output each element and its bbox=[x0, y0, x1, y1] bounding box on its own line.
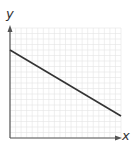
y-axis-arrow-icon bbox=[8, 25, 13, 32]
y-axis-label: y bbox=[6, 6, 14, 21]
chart bbox=[0, 0, 131, 143]
x-axis-label: x bbox=[122, 128, 130, 143]
